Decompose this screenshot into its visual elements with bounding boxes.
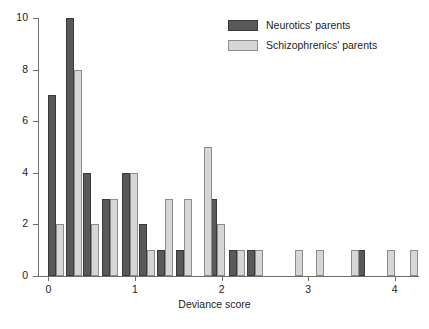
bar-schizo [204, 147, 212, 276]
bar-schizo [255, 250, 263, 276]
x-tick-mark [135, 277, 136, 281]
bar-schizo [217, 224, 225, 276]
bar-schizo [295, 250, 303, 276]
y-tick-label: 8 [2, 64, 28, 74]
bar-neurotic [247, 250, 255, 276]
bar-neurotic [102, 199, 110, 276]
legend-item: Schizophrenics' parents [228, 40, 377, 51]
bar-schizo [147, 250, 155, 276]
x-axis-title: Deviance score [0, 298, 429, 310]
x-tick-label: 2 [210, 283, 234, 295]
x-tick-label: 4 [383, 283, 407, 295]
bar-neurotic [139, 224, 147, 276]
legend-label: Schizophrenics' parents [266, 40, 377, 51]
y-tick-mark [33, 276, 38, 277]
x-tick-label: 0 [36, 283, 60, 295]
y-tick-label: 6 [2, 115, 28, 125]
bar-schizo [410, 250, 418, 276]
y-tick-label: 10 [2, 12, 28, 22]
bar-schizo [130, 173, 138, 276]
bar-schizo [74, 70, 82, 276]
bar-schizo [91, 224, 99, 276]
x-tick-mark [222, 277, 223, 281]
bar-neurotic [229, 250, 237, 276]
bar-neurotic [83, 173, 91, 276]
bar-schizo [351, 250, 359, 276]
legend-item: Neurotics' parents [228, 20, 377, 31]
x-tick-label: 3 [296, 283, 320, 295]
bar-schizo [184, 199, 192, 276]
x-tick-mark [395, 277, 396, 281]
x-tick-mark [308, 277, 309, 281]
x-axis-line [38, 276, 419, 277]
bar-neurotic [176, 250, 184, 276]
bar-neurotic [66, 18, 74, 276]
bar-schizo [387, 250, 395, 276]
chart-container: 0246810 01234 Neurotics' parentsSchizoph… [0, 0, 429, 329]
figure-caption [18, 322, 418, 329]
legend-swatch-neurotic [228, 20, 258, 31]
x-tick-mark [48, 277, 49, 281]
bar-neurotic [48, 95, 56, 276]
bar-schizo [165, 199, 173, 276]
legend-swatch-schizo [228, 40, 258, 51]
bar-schizo [56, 224, 64, 276]
bar-schizo [110, 199, 118, 276]
y-tick-label: 4 [2, 167, 28, 177]
y-tick-label: 0 [2, 270, 28, 280]
x-tick-label: 1 [123, 283, 147, 295]
legend-label: Neurotics' parents [266, 20, 350, 31]
bar-schizo [316, 250, 324, 276]
chart-legend: Neurotics' parentsSchizophrenics' parent… [228, 20, 377, 60]
bar-neurotic [122, 173, 130, 276]
bar-schizo [237, 250, 245, 276]
y-tick-label: 2 [2, 218, 28, 228]
bar-neurotic [157, 250, 165, 276]
